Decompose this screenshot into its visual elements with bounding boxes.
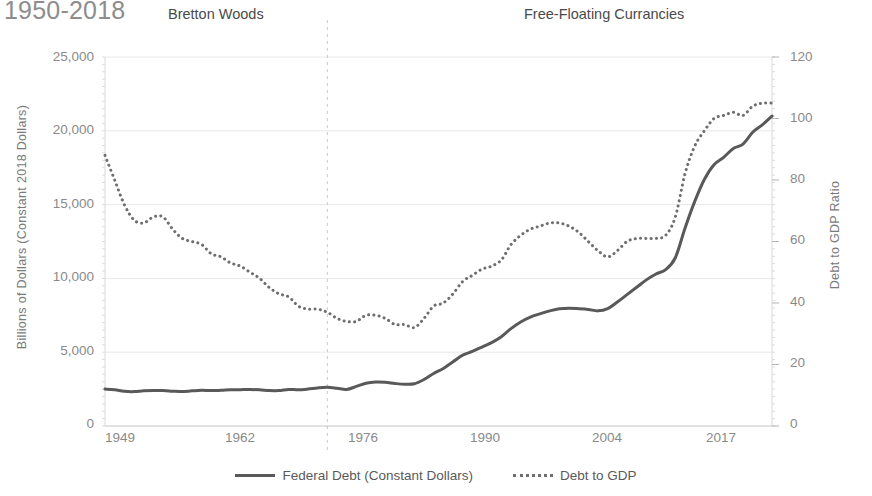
y-tick-left-25000: 25,000 xyxy=(14,49,94,64)
y-tick-right-100: 100 xyxy=(790,110,850,125)
legend-swatch-dotted-line-icon xyxy=(513,474,553,477)
plot-area xyxy=(0,0,872,496)
x-tick-1962: 1962 xyxy=(205,430,275,445)
y-tick-right-0: 0 xyxy=(790,416,850,431)
y-tick-right-40: 40 xyxy=(790,294,850,309)
y-tick-left-20000: 20,000 xyxy=(14,122,94,137)
legend-item-federal-debt: Federal Debt (Constant Dollars) xyxy=(235,468,473,483)
axis-lines xyxy=(105,57,772,426)
y-tick-right-120: 120 xyxy=(790,49,850,64)
chart-legend: Federal Debt (Constant Dollars) Debt to … xyxy=(0,468,872,483)
x-tick-2017: 2017 xyxy=(686,430,756,445)
x-tick-1949: 1949 xyxy=(85,430,155,445)
minor-ticks xyxy=(102,57,779,426)
series-line-debt-to-gdp xyxy=(105,103,772,328)
legend-item-debt-to-gdp: Debt to GDP xyxy=(513,468,637,483)
annotation-free-floating: Free-Floating Currancies xyxy=(524,6,684,22)
x-tick-2004: 2004 xyxy=(572,430,642,445)
gridlines xyxy=(105,57,772,426)
x-tick-1990: 1990 xyxy=(450,430,520,445)
y-tick-right-80: 80 xyxy=(790,171,850,186)
x-tick-1976: 1976 xyxy=(328,430,398,445)
legend-label-debt-to-gdp: Debt to GDP xyxy=(560,468,637,483)
chart-container: 1950-2018 Bretton Woods Free-Floating Cu… xyxy=(0,0,872,496)
series-line-federal-debt xyxy=(105,116,772,392)
y-tick-left-10000: 10,000 xyxy=(14,269,94,284)
y-tick-left-0: 0 xyxy=(14,416,94,431)
chart-title: 1950-2018 xyxy=(4,0,125,25)
legend-label-federal-debt: Federal Debt (Constant Dollars) xyxy=(282,468,473,483)
y-tick-right-20: 20 xyxy=(790,355,850,370)
annotation-bretton-woods: Bretton Woods xyxy=(168,6,264,22)
y-tick-left-5000: 5,000 xyxy=(14,343,94,358)
y-tick-right-60: 60 xyxy=(790,232,850,247)
y-tick-left-15000: 15,000 xyxy=(14,196,94,211)
legend-swatch-solid-line-icon xyxy=(235,474,275,477)
data-series-layer xyxy=(105,103,772,392)
